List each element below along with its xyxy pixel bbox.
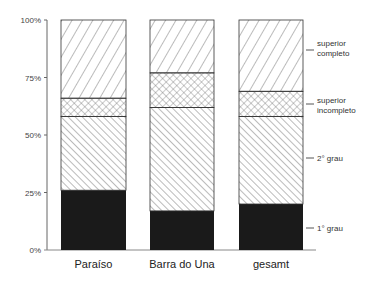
segment-superior-incompleto	[61, 98, 126, 116]
category-label-gesamt: gesamt	[253, 258, 289, 270]
y-tick-75: 75%	[25, 74, 41, 83]
legend-superior-completo-line1: superior	[317, 39, 346, 48]
legend-2-grau: 2° grau	[317, 154, 343, 163]
segment-superior-completo	[61, 20, 126, 98]
legend-superior-completo-line2: completo	[317, 49, 350, 58]
bar-paraiso	[61, 20, 126, 250]
bar-gesamt	[239, 20, 303, 250]
segment-2-grau	[61, 117, 126, 191]
segment-superior-completo	[150, 20, 214, 73]
stacked-bar-chart: 100% 75% 50% 25% 0% Paraíso Barra do Una…	[0, 0, 382, 283]
y-axis: 100% 75% 50% 25% 0%	[21, 16, 47, 255]
y-tick-50: 50%	[25, 131, 41, 140]
segment-2-grau	[239, 117, 303, 204]
y-tick-0: 0%	[29, 246, 41, 255]
legend-1-grau: 1° grau	[317, 224, 343, 233]
segment-1-grau	[239, 204, 303, 250]
category-label-paraiso: Paraíso	[75, 258, 113, 270]
category-label-barra-do-una: Barra do Una	[149, 258, 215, 270]
segment-1-grau	[150, 211, 214, 250]
bar-barra-do-una	[150, 20, 214, 250]
y-tick-100: 100%	[21, 16, 41, 25]
segment-2-grau	[150, 107, 214, 210]
segment-1-grau	[61, 190, 126, 250]
legend-superior-incompleto-line1: superior	[317, 96, 346, 105]
segment-superior-completo	[239, 20, 303, 91]
legend: superior completo superior incompleto 2°…	[306, 39, 356, 233]
legend-superior-incompleto-line2: incompleto	[317, 106, 356, 115]
segment-superior-incompleto	[150, 73, 214, 108]
y-tick-25: 25%	[25, 189, 41, 198]
segment-superior-incompleto	[239, 91, 303, 116]
